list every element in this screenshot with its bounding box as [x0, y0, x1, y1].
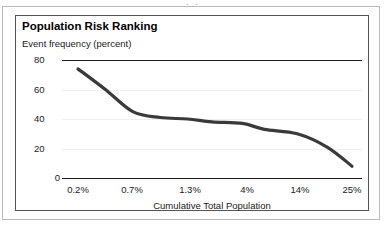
plot-area	[62, 60, 362, 178]
x-tick-label: 0.7%	[109, 184, 155, 195]
x-axis-title: Cumulative Total Population	[62, 200, 362, 211]
series-path-event-frequency	[78, 69, 352, 166]
y-tick-label: 20	[34, 144, 60, 154]
chart-title: Population Risk Ranking	[22, 20, 157, 32]
y-tick-label: 40	[34, 114, 60, 124]
figure-outer-frame: Population Risk Ranking Event frequency …	[2, 6, 380, 220]
x-tick-label: 25%	[329, 184, 375, 195]
chart-container: Population Risk Ranking Event frequency …	[15, 15, 369, 211]
x-tick-label: 0.2%	[55, 184, 101, 195]
x-tick-label: 4%	[224, 184, 270, 195]
y-axis-tick-labels: 80 60 40 20 0	[32, 60, 60, 178]
x-tick-label: 14%	[277, 184, 323, 195]
series-line-chart	[62, 60, 362, 178]
x-axis-tick-labels: 0.2% 0.7% 1.3% 4% 14% 25%	[62, 184, 362, 198]
y-tick-label: 80	[34, 55, 60, 65]
y-tick-label: 0	[38, 173, 60, 183]
x-tick-label: 1.3%	[167, 184, 213, 195]
y-axis-label: Event frequency (percent)	[22, 38, 131, 49]
y-tick-label: 60	[34, 85, 60, 95]
x-axis-line	[62, 178, 362, 179]
caption-remnant: · ·	[0, 0, 386, 5]
